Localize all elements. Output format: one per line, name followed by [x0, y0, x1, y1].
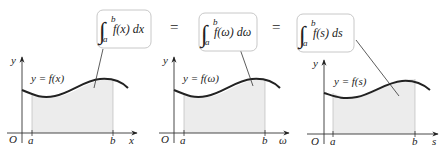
lower-limit: a — [205, 37, 210, 47]
x-axis-label: s — [432, 135, 436, 147]
y-axis-label: y — [10, 54, 16, 66]
y-axis-label: y — [162, 54, 168, 66]
equals-sign-2: = — [272, 19, 280, 35]
x-axis-label: ω — [279, 134, 287, 146]
y-axis-label: y — [312, 57, 318, 69]
area-under-curve — [333, 79, 415, 134]
leader-line — [356, 40, 399, 96]
panel-s: y = f(s) y O a b s ∫ b a f(s) ds — [297, 14, 438, 147]
lower-limit: a — [303, 38, 308, 48]
a-label: a — [28, 134, 34, 146]
curve-label: y = f(x) — [30, 72, 64, 85]
curve-label: y = f(s) — [333, 75, 367, 88]
b-label: b — [262, 134, 268, 146]
a-label: a — [330, 135, 336, 147]
panel-omega: y = f(ω) y O a b ω ∫ b a f(ω) dω — [159, 13, 289, 146]
equals-sign-1: = — [170, 19, 178, 35]
origin-label: O — [311, 135, 319, 147]
integrand: f(x) dx — [113, 22, 145, 36]
integral-diagram: y = f(x) y O a b x ∫ b a f(x) dx = y = f… — [0, 0, 445, 152]
curve-label: y = f(ω) — [182, 72, 219, 85]
integrand: f(s) ds — [313, 26, 343, 40]
area-under-curve — [184, 79, 265, 133]
a-label: a — [180, 134, 186, 146]
origin-label: O — [9, 133, 17, 145]
origin-label: O — [161, 133, 169, 145]
x-axis-label: x — [128, 134, 134, 146]
b-label: b — [110, 134, 116, 146]
integrand: f(ω) dω — [214, 25, 251, 39]
lower-limit: a — [103, 34, 108, 44]
area-under-curve — [32, 79, 113, 133]
panel-x: y = f(x) y O a b x ∫ b a f(x) dx — [7, 10, 151, 146]
b-label: b — [412, 135, 418, 147]
